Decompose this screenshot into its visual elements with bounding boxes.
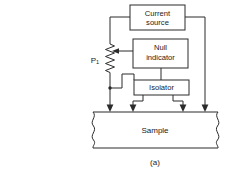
- null-indicator-label-line1: Null: [154, 43, 167, 52]
- junction-dot-left-rail: [108, 86, 111, 89]
- potentiometer-resistor-symbol: [106, 42, 115, 80]
- figure-container: P1 Current source Null indicator Isolato…: [0, 0, 228, 180]
- block-isolator[interactable]: Isolator: [134, 80, 189, 95]
- wire-current-source-to-pot-top: [110, 17, 130, 42]
- potentiometer-label-subscript: 1: [96, 60, 99, 66]
- block-null-indicator[interactable]: Null indicator: [133, 39, 188, 68]
- sample-left-break-edge: [92, 112, 94, 148]
- probe-arrow-2: [130, 105, 137, 113]
- probe-arrow-4: [202, 105, 209, 113]
- potentiometer-label: P1: [91, 56, 99, 66]
- current-source-label-line1: Current: [145, 9, 171, 18]
- probe-arrow-3: [180, 105, 187, 113]
- block-current-source[interactable]: Current source: [130, 5, 185, 30]
- figure-caption: (a): [150, 158, 160, 167]
- circuit-diagram: P1 Current source Null indicator Isolato…: [0, 0, 228, 180]
- block-sample[interactable]: Sample: [92, 112, 219, 148]
- sample-label: Sample: [141, 126, 169, 135]
- sample-right-break-edge: [216, 112, 218, 148]
- wire-isolator-to-left-rail: [110, 74, 134, 88]
- null-indicator-label-line2: indicator: [146, 53, 175, 62]
- isolator-label: Isolator: [149, 83, 174, 92]
- current-source-label-line2: source: [146, 18, 169, 27]
- probe-arrow-1: [107, 105, 114, 113]
